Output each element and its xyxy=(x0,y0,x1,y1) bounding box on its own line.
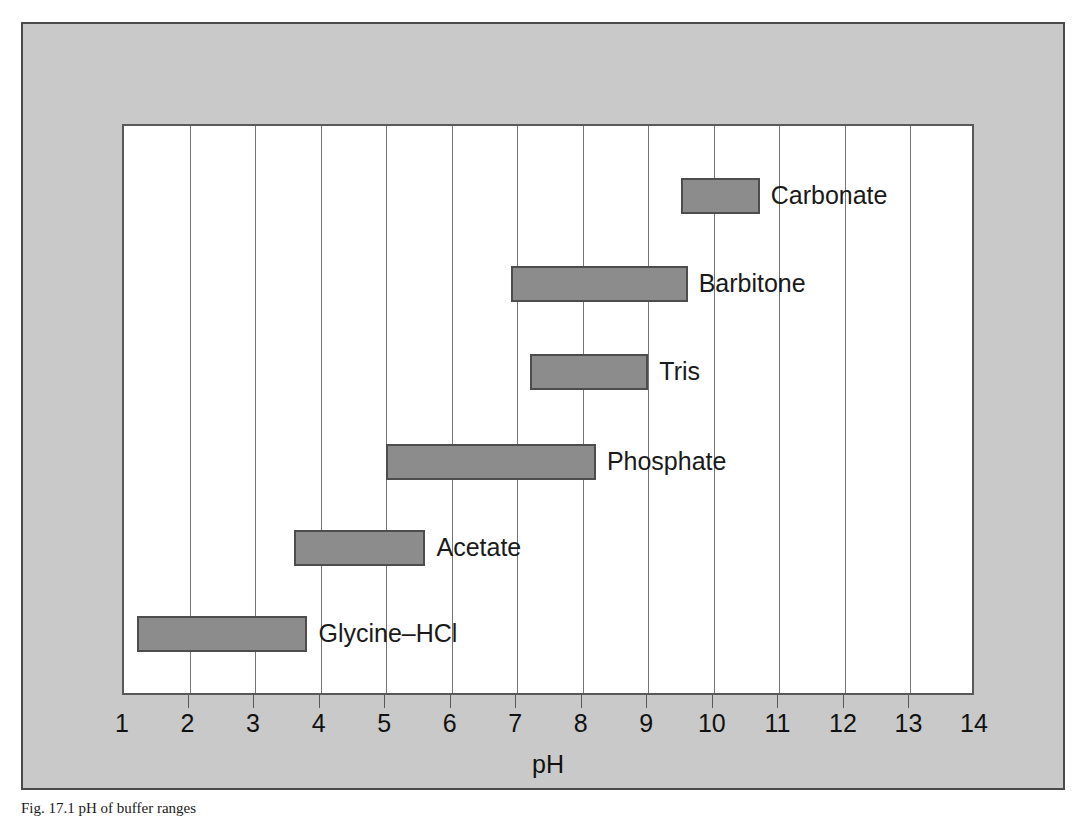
figure-frame: CarbonateBarbitoneTrisPhosphateAcetateGl… xyxy=(21,22,1065,790)
x-tick-6 xyxy=(450,695,451,708)
x-tick-label-7: 7 xyxy=(508,709,522,738)
x-tick-11 xyxy=(777,695,778,708)
x-tick-label-8: 8 xyxy=(574,709,588,738)
bar-label-tris: Tris xyxy=(659,353,700,389)
x-tick-3 xyxy=(253,695,254,708)
x-tick-label-12: 12 xyxy=(829,709,857,738)
bar-label-glycine-hcl: Glycine–HCl xyxy=(319,615,458,651)
gridline-ph-8 xyxy=(583,126,584,693)
x-axis-title: pH xyxy=(532,750,564,779)
gridline-ph-6 xyxy=(452,126,453,693)
x-tick-9 xyxy=(646,695,647,708)
bar-label-carbonate: Carbonate xyxy=(771,177,888,213)
x-tick-13 xyxy=(908,695,909,708)
x-tick-label-13: 13 xyxy=(895,709,923,738)
x-tick-label-4: 4 xyxy=(312,709,326,738)
bar-glycine-hcl xyxy=(137,616,307,652)
chart-plot-area: CarbonateBarbitoneTrisPhosphateAcetateGl… xyxy=(122,124,974,695)
x-tick-label-3: 3 xyxy=(246,709,260,738)
bar-label-barbitone: Barbitone xyxy=(699,265,806,301)
bar-phosphate xyxy=(386,444,596,480)
x-tick-label-10: 10 xyxy=(698,709,726,738)
gridline-ph-3 xyxy=(255,126,256,693)
x-tick-label-9: 9 xyxy=(639,709,653,738)
x-tick-label-5: 5 xyxy=(377,709,391,738)
gridline-ph-2 xyxy=(190,126,191,693)
gridline-ph-13 xyxy=(910,126,911,693)
figure-caption: Fig. 17.1 pH of buffer ranges xyxy=(21,800,196,817)
gridline-ph-9 xyxy=(648,126,649,693)
x-tick-label-1: 1 xyxy=(115,709,129,738)
gridline-ph-4 xyxy=(321,126,322,693)
x-tick-label-11: 11 xyxy=(764,709,790,738)
bar-carbonate xyxy=(681,178,760,214)
bar-tris xyxy=(530,354,648,390)
bar-acetate xyxy=(294,530,425,566)
x-tick-10 xyxy=(712,695,713,708)
bar-barbitone xyxy=(511,266,688,302)
gridline-ph-7 xyxy=(517,126,518,693)
x-tick-12 xyxy=(843,695,844,708)
x-tick-label-2: 2 xyxy=(181,709,195,738)
x-tick-label-14: 14 xyxy=(960,709,988,738)
x-tick-5 xyxy=(384,695,385,708)
x-tick-label-6: 6 xyxy=(443,709,457,738)
gridline-ph-5 xyxy=(386,126,387,693)
x-tick-4 xyxy=(319,695,320,708)
x-tick-2 xyxy=(188,695,189,708)
bar-label-acetate: Acetate xyxy=(436,529,521,565)
x-tick-7 xyxy=(515,695,516,708)
bar-label-phosphate: Phosphate xyxy=(607,443,727,479)
x-tick-8 xyxy=(581,695,582,708)
